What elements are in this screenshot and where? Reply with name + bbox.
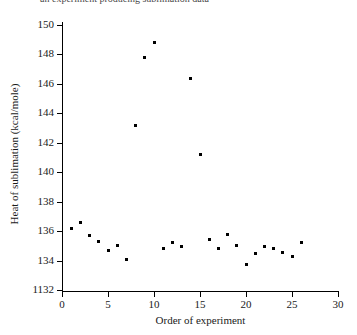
y-tick-label: 142 xyxy=(38,137,55,148)
x-tick-label: 10 xyxy=(139,299,169,310)
scatter-point xyxy=(199,153,202,156)
y-tick-mark xyxy=(57,143,62,144)
x-tick-label: 30 xyxy=(323,299,353,310)
y-tick-label: 1132 xyxy=(32,284,54,295)
scatter-point xyxy=(263,245,266,248)
x-tick-mark xyxy=(292,292,293,297)
scatter-point xyxy=(226,233,229,236)
y-tick-mark xyxy=(57,231,62,232)
scatter-point xyxy=(235,244,238,247)
scatter-point xyxy=(116,244,119,247)
scatter-point xyxy=(189,77,192,80)
scatter-point xyxy=(97,240,100,243)
scatter-point xyxy=(107,249,110,252)
scatter-point xyxy=(180,245,183,248)
scatter-point xyxy=(217,247,220,250)
y-tick-label: 148 xyxy=(38,48,55,59)
y-axis-title: Heat of sublimation (kcal/mole) xyxy=(8,54,20,254)
x-tick-label: 20 xyxy=(231,299,261,310)
y-tick-mark xyxy=(57,202,62,203)
caption-fragment-strip: an experiment producing sublimation data xyxy=(0,0,357,8)
y-axis-line xyxy=(62,22,63,291)
y-tick-mark xyxy=(57,84,62,85)
y-tick-mark xyxy=(57,113,62,114)
x-tick-label: 5 xyxy=(93,299,123,310)
scatter-point xyxy=(281,251,284,254)
scatter-point xyxy=(208,238,211,241)
y-tick-label: 138 xyxy=(38,196,55,207)
y-tick-mark xyxy=(57,261,62,262)
scatter-point xyxy=(88,234,91,237)
x-tick-mark xyxy=(154,292,155,297)
scatter-point xyxy=(70,227,73,230)
scatter-point xyxy=(143,56,146,59)
scatter-point xyxy=(153,41,156,44)
x-tick-mark xyxy=(108,292,109,297)
caption-fragment-text: an experiment producing sublimation data xyxy=(40,0,209,4)
y-tick-label: 134 xyxy=(38,255,55,266)
y-tick-label: 150 xyxy=(38,19,55,30)
y-tick-label: 146 xyxy=(38,78,55,89)
x-tick-label: 15 xyxy=(185,299,215,310)
scatter-point xyxy=(291,255,294,258)
figure-canvas: an experiment producing sublimation data… xyxy=(0,0,357,335)
scatter-point xyxy=(79,221,82,224)
y-tick-mark xyxy=(57,172,62,173)
y-tick-label: 140 xyxy=(38,166,55,177)
scatter-point xyxy=(162,247,165,250)
scatter-point xyxy=(125,258,128,261)
scatter-point xyxy=(171,241,174,244)
scatter-point xyxy=(300,241,303,244)
x-axis-title: Order of experiment xyxy=(62,314,339,326)
scatter-point xyxy=(254,252,257,255)
y-tick-mark xyxy=(57,290,62,291)
x-tick-mark xyxy=(62,292,63,297)
y-tick-label: 144 xyxy=(38,107,55,118)
x-tick-mark xyxy=(200,292,201,297)
x-tick-mark xyxy=(246,292,247,297)
scatter-point xyxy=(134,124,137,127)
x-tick-mark xyxy=(338,292,339,297)
scatter-point xyxy=(272,247,275,250)
y-tick-label: 136 xyxy=(38,225,55,236)
y-tick-mark xyxy=(57,25,62,26)
x-tick-label: 25 xyxy=(277,299,307,310)
y-tick-mark xyxy=(57,54,62,55)
scatter-point xyxy=(245,263,248,266)
x-tick-label: 0 xyxy=(47,299,77,310)
